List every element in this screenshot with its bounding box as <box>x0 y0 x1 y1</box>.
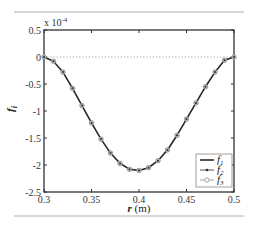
y-multiplier: x 10-4 <box>44 16 68 28</box>
series-f2-marker <box>195 102 197 104</box>
series-f2-marker <box>43 56 45 58</box>
y-tick-label: -1 <box>33 106 41 117</box>
series-f2-marker <box>148 167 150 169</box>
legend-box <box>196 154 232 187</box>
series-f2-marker <box>91 122 93 124</box>
series-f2-marker <box>233 56 235 58</box>
y-tick-label: -0.5 <box>25 79 41 90</box>
series-f2-marker <box>119 162 121 164</box>
series-f2-marker <box>100 138 102 140</box>
series-f1-line <box>44 57 234 170</box>
series-f2-marker <box>81 105 83 107</box>
series-f2-marker <box>157 160 159 162</box>
x-tick-label: 0.45 <box>178 194 196 205</box>
series-f2-marker <box>53 60 55 62</box>
y-tick-label: 0.5 <box>29 25 42 36</box>
y-tick-label: -2 <box>33 160 41 171</box>
legend: f1 f2 f3 <box>196 153 232 187</box>
series-f2-marker <box>186 118 188 120</box>
series-f2-marker <box>110 152 112 154</box>
series-f2-marker <box>72 87 74 89</box>
series-f2-marker <box>214 71 216 73</box>
series-f2-marker <box>62 71 64 73</box>
x-tick-label: 0.5 <box>228 194 241 205</box>
x-tick-label: 0.35 <box>83 194 101 205</box>
y-tick-label: -2.5 <box>25 187 41 198</box>
series-f2-marker <box>205 86 207 88</box>
series-f2-marker <box>176 134 178 136</box>
series-f2-marker <box>129 168 131 170</box>
y-tick-label: -1.5 <box>25 133 41 144</box>
y-tick-label: 0 <box>36 52 41 63</box>
series-f3-line <box>44 57 234 170</box>
x-axis-label: r (m) <box>128 202 151 215</box>
y-axis-label: fi <box>4 105 19 112</box>
series-f2-marker <box>138 169 140 171</box>
series-f2-marker <box>167 149 169 151</box>
series-f2-marker <box>224 59 226 61</box>
line-chart: 0.30.350.40.450.50.50-0.5-1-1.5-2-2.5 x … <box>0 0 254 230</box>
